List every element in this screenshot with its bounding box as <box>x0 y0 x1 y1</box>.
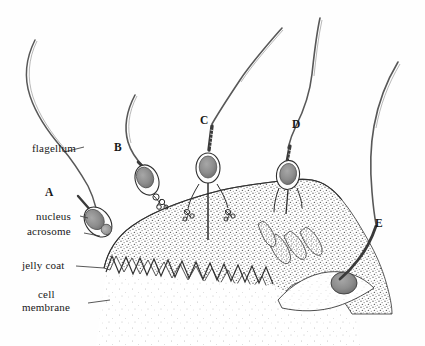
label-cell-membrane-line1: cell <box>38 288 55 300</box>
flagellum-A <box>27 40 96 208</box>
nucleus-C <box>199 156 217 178</box>
label-cell-membrane-line2: membrane <box>22 301 70 313</box>
midpiece-C <box>209 126 213 150</box>
stage-label-c: C <box>200 114 209 126</box>
stage-label-b: B <box>114 141 122 153</box>
stage-label-a: A <box>45 186 54 198</box>
fertilization-diagram <box>0 0 425 346</box>
flagellum-C <box>212 28 282 124</box>
label-acrosome: acrosome <box>27 225 71 237</box>
sperm-B <box>126 95 168 209</box>
figure-canvas: flagellum nucleus acrosome jelly coat ce… <box>0 0 425 346</box>
stage-label-d: D <box>292 118 301 130</box>
label-jelly-coat: jelly coat <box>22 259 65 271</box>
acrosomal-reaction-B <box>153 194 168 209</box>
leader-jelly-coat <box>76 266 104 268</box>
stage-label-e: E <box>375 217 383 229</box>
label-nucleus: nucleus <box>36 210 71 222</box>
label-flagellum: flagellum <box>32 142 76 154</box>
flagellum-E <box>371 62 398 224</box>
